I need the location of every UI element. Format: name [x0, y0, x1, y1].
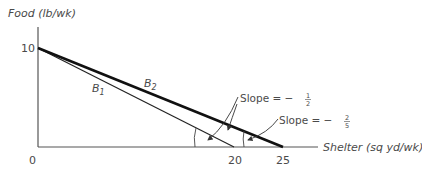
budget-constraint-chart: Food (lb/wk) Shelter (sq yd/wk) 10 0 20 …: [0, 0, 422, 170]
x-axis-label: Shelter (sq yd/wk): [323, 141, 422, 154]
angle-arc-b2: [243, 131, 244, 147]
slope2-denominator: 5: [345, 122, 349, 130]
x-tick-0: 0: [29, 154, 36, 167]
x-tick-20: 20: [228, 154, 242, 167]
budget-line-b1: [38, 48, 234, 147]
slope2-numerator: 2: [345, 114, 349, 122]
angle-arc-b1: [194, 128, 196, 147]
y-axis-label: Food (lb/wk): [8, 7, 76, 20]
slope2-pointer-arrow: [248, 119, 278, 140]
y-tick-10: 10: [21, 42, 35, 55]
x-tick-25: 25: [276, 154, 290, 167]
slope1-annotation: Slope = −: [240, 92, 293, 104]
slope2-annotation: Slope = −: [279, 114, 332, 126]
b2-label: B2: [144, 77, 157, 92]
b1-label: B1: [92, 82, 105, 97]
slope1-numerator: 1: [306, 92, 310, 100]
slope1-denominator: 2: [306, 100, 310, 108]
